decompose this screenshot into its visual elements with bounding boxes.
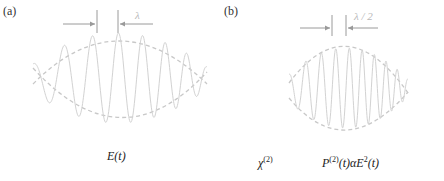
waveform-a: [33, 33, 207, 122]
arrowhead-left-icon: [120, 22, 125, 27]
arrowhead-right-icon: [325, 26, 330, 31]
caption-e-of-t: E(t): [106, 149, 126, 163]
wavelength-label-b: λ / 2: [353, 10, 373, 22]
caption-polarization: P(2)(t)αE2(t): [321, 155, 379, 170]
chi-label: χ(2): [257, 155, 273, 170]
wavelength-marker-b: λ / 2: [300, 10, 378, 36]
wavelength-label-a: λ: [134, 9, 140, 21]
panel-a-label: (a): [3, 4, 16, 18]
waveform-b: [289, 48, 408, 128]
arrowhead-right-icon: [90, 22, 95, 27]
panel-b-label: (b): [224, 4, 238, 18]
envelope-bottom-a: [33, 68, 207, 118]
envelope-bottom-b: [289, 92, 408, 130]
figure: (a) λ E(t) (b) λ / 2 χ(2) P(2)(t)αE2(t): [0, 0, 444, 181]
wavelength-marker-a: λ: [63, 9, 153, 33]
arrowhead-left-icon: [348, 26, 353, 31]
